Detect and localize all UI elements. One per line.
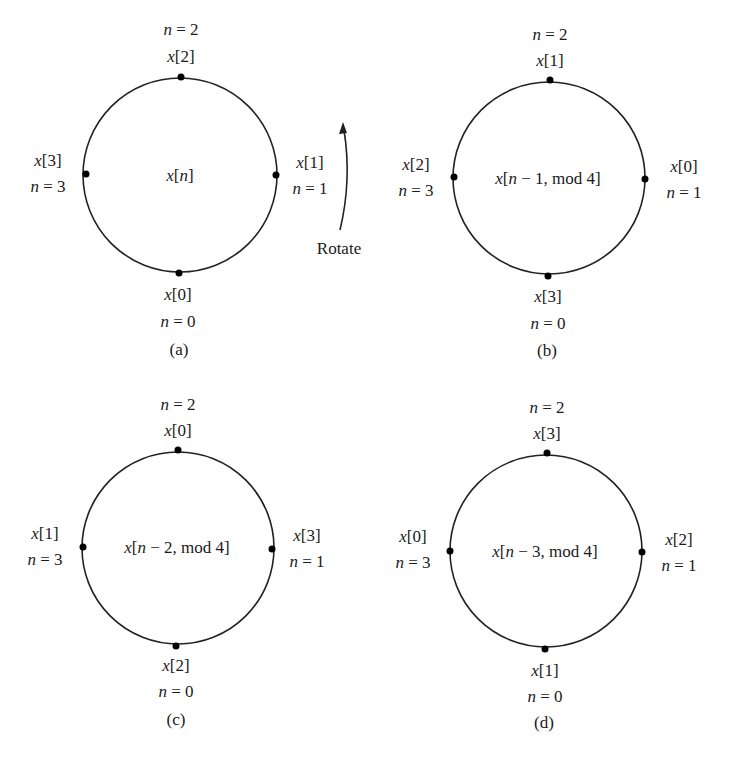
bottom-value-label: x[2] xyxy=(161,656,189,675)
caption-a: (a) xyxy=(170,340,189,359)
dot-left xyxy=(451,174,458,181)
caption-c: (c) xyxy=(167,710,186,729)
caption-d: (d) xyxy=(534,713,554,732)
dot-bottom xyxy=(542,646,549,653)
dot-top xyxy=(178,74,185,81)
dot-top xyxy=(547,77,554,84)
bottom-value-label: x[1] xyxy=(530,661,558,680)
top-n-label: n = 2 xyxy=(160,395,195,414)
dot-left xyxy=(83,171,90,178)
center-expression: x[n − 3, mod 4] xyxy=(491,542,597,561)
top-value-label: x[1] xyxy=(535,51,563,70)
top-n-label: n = 2 xyxy=(163,20,198,39)
dot-left xyxy=(80,544,87,551)
rotate-label: Rotate xyxy=(317,239,361,258)
arrowhead-icon xyxy=(339,122,347,134)
bottom-n-label: n = 0 xyxy=(160,312,195,331)
bottom-n-label: n = 0 xyxy=(530,314,565,333)
center-expression: x[n − 1, mod 4] xyxy=(494,169,600,188)
center-expression: x[n − 2, mod 4] xyxy=(123,538,229,557)
bottom-n-label: n = 0 xyxy=(158,682,193,701)
dot-top xyxy=(544,450,551,457)
dot-bottom xyxy=(545,273,552,280)
right-value-label: x[3] xyxy=(292,526,320,545)
right-n-label: n = 1 xyxy=(289,552,324,571)
caption-b: (b) xyxy=(537,341,557,360)
rotate-arrow xyxy=(340,130,347,230)
dot-right xyxy=(273,172,280,179)
dot-right xyxy=(639,549,646,556)
left-n-label: n = 3 xyxy=(27,550,62,569)
panel-d: n = 2 x[3] x[2] n = 1 x[1] n = 0 x[0] n … xyxy=(395,398,696,732)
dot-left xyxy=(447,548,454,555)
right-n-label: n = 1 xyxy=(661,556,696,575)
top-n-label: n = 2 xyxy=(529,398,564,417)
top-value-label: x[0] xyxy=(163,421,191,440)
left-n-label: n = 3 xyxy=(398,181,433,200)
top-value-label: x[2] xyxy=(166,47,194,66)
right-value-label: x[0] xyxy=(669,157,697,176)
right-n-label: n = 1 xyxy=(666,183,701,202)
right-n-label: n = 1 xyxy=(292,179,327,198)
dot-right xyxy=(642,176,649,183)
bottom-value-label: x[0] xyxy=(163,285,191,304)
dot-right xyxy=(269,546,276,553)
right-value-label: x[2] xyxy=(664,530,692,549)
panel-b: n = 2 x[1] x[0] n = 1 x[3] n = 0 x[2] n … xyxy=(398,25,701,360)
panel-a: n = 2 x[2] x[1] n = 1 x[0] n = 0 x[3] n … xyxy=(30,20,361,359)
circular-shift-diagram: n = 2 x[2] x[1] n = 1 x[0] n = 0 x[3] n … xyxy=(0,0,731,760)
bottom-n-label: n = 0 xyxy=(527,687,562,706)
left-value-label: x[3] xyxy=(33,151,61,170)
center-expression: x[n] xyxy=(165,166,193,185)
left-n-label: n = 3 xyxy=(395,553,430,572)
dot-bottom xyxy=(176,270,183,277)
top-value-label: x[3] xyxy=(532,424,560,443)
left-n-label: n = 3 xyxy=(30,177,65,196)
left-value-label: x[2] xyxy=(401,155,429,174)
dot-top xyxy=(175,447,182,454)
left-value-label: x[1] xyxy=(30,524,58,543)
panel-c: n = 2 x[0] x[3] n = 1 x[2] n = 0 x[1] n … xyxy=(27,395,324,729)
right-value-label: x[1] xyxy=(295,153,323,172)
dot-bottom xyxy=(173,643,180,650)
left-value-label: x[0] xyxy=(398,527,426,546)
top-n-label: n = 2 xyxy=(532,25,567,44)
bottom-value-label: x[3] xyxy=(533,287,561,306)
